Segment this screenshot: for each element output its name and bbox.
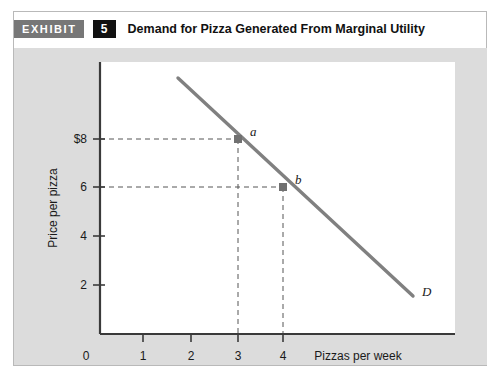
chart-panel: $8 6 4 2 0 1 2 3 4 Price per pizza Pizza…: [14, 48, 487, 365]
x-tick-label-1: 1: [140, 349, 147, 363]
point-label-a: a: [250, 124, 257, 139]
x-tick-label-4: 4: [280, 349, 287, 363]
y-tick-label-6: 6: [80, 180, 87, 194]
x-axis-ticks: [143, 334, 283, 342]
exhibit-header: EXHIBIT 5 Demand for Pizza Generated Fro…: [14, 18, 425, 40]
exhibit-badge: EXHIBIT: [14, 20, 84, 38]
exhibit-title: Demand for Pizza Generated From Marginal…: [128, 22, 425, 36]
data-point-marker-a: [234, 135, 242, 143]
exhibit-number-badge: 5: [93, 20, 116, 38]
demand-curve-chart: $8 6 4 2 0 1 2 3 4 Price per pizza Pizza…: [14, 48, 487, 365]
point-label-b: b: [295, 172, 302, 187]
plot-area-background: [100, 62, 455, 334]
y-tick-label-2: 2: [80, 278, 87, 292]
curve-label-demand: D: [421, 284, 432, 299]
data-point-marker-b: [279, 183, 287, 191]
y-tick-label-4: 4: [80, 229, 87, 243]
x-axis-title: Pizzas per week: [314, 349, 402, 363]
exhibit-figure: EXHIBIT 5 Demand for Pizza Generated Fro…: [0, 0, 501, 379]
y-tick-label-8: $8: [74, 132, 88, 146]
x-tick-label-3: 3: [235, 349, 242, 363]
x-tick-label-0: 0: [83, 349, 90, 363]
x-tick-label-2: 2: [188, 349, 195, 363]
y-axis-title: Price per pizza: [46, 168, 60, 248]
